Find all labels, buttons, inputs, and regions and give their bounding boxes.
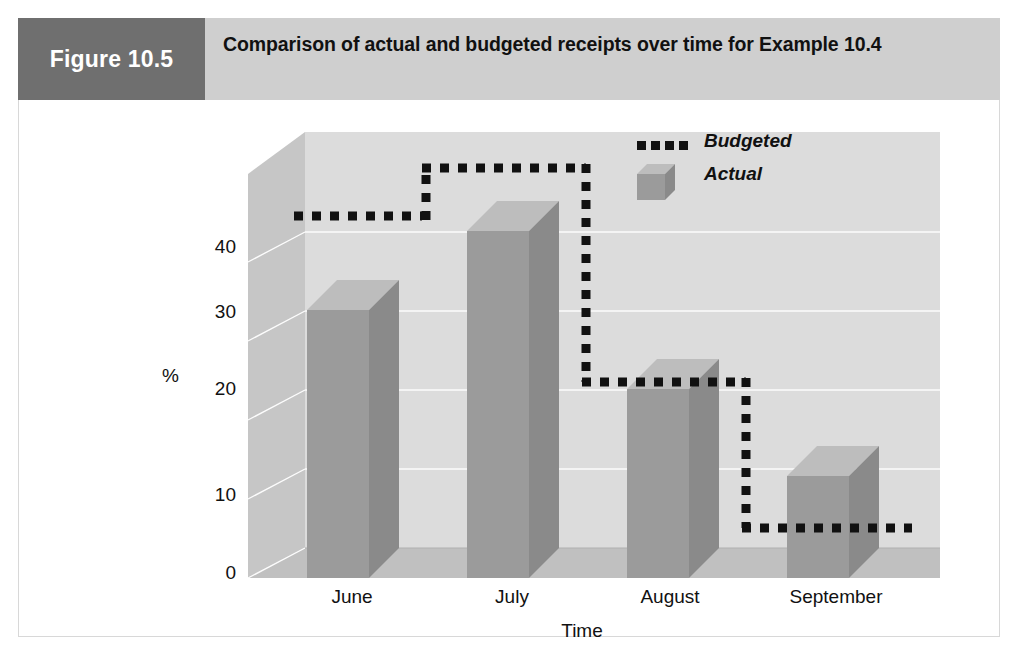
- bar-september: [787, 446, 879, 578]
- x-axis-title: Time: [502, 620, 662, 642]
- legend-actual-swatch: [637, 164, 675, 200]
- figure-title: Comparison of actual and budgeted receip…: [223, 32, 983, 57]
- left-wall: [248, 132, 305, 578]
- y-tick-30: 30: [192, 301, 236, 323]
- figure-number-label: Figure 10.5: [18, 18, 205, 100]
- bar-june: [307, 280, 399, 578]
- y-tick-20: 20: [192, 378, 236, 400]
- x-tick-august: August: [590, 586, 750, 608]
- legend-label-actual: Actual: [704, 163, 762, 185]
- y-tick-10: 10: [192, 484, 236, 506]
- y-axis-title: %: [162, 365, 179, 387]
- bar-july: [467, 201, 559, 578]
- chart-plot: [232, 108, 972, 638]
- y-tick-40: 40: [192, 236, 236, 258]
- x-tick-july: July: [432, 586, 592, 608]
- x-tick-september: September: [746, 586, 926, 608]
- bar-august: [627, 359, 719, 578]
- figure-header: Figure 10.5 Comparison of actual and bud…: [18, 18, 1000, 100]
- x-tick-june: June: [272, 586, 432, 608]
- y-tick-0: 0: [192, 562, 236, 584]
- legend-label-budgeted: Budgeted: [704, 130, 792, 152]
- chart-canvas: Budgeted Actual 0 10 20 30 40 % June Jul…: [232, 108, 972, 638]
- figure-root: Figure 10.5 Comparison of actual and bud…: [0, 0, 1009, 657]
